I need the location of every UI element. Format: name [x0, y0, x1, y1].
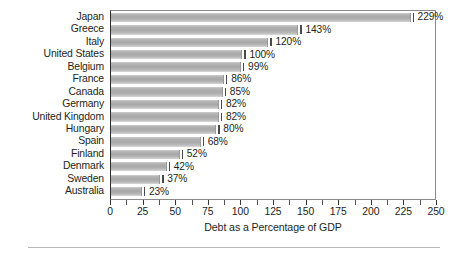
x-tick-label: 175	[330, 206, 347, 217]
x-tick-label: 225	[395, 206, 412, 217]
bar-end-tick	[221, 100, 222, 109]
bar	[111, 187, 142, 196]
x-tick-major	[143, 200, 144, 205]
bar-row: 68%	[111, 136, 437, 148]
x-tick-minor	[355, 200, 356, 205]
category-axis-labels: JapanGreeceItalyUnited StatesBelgiumFran…	[0, 11, 104, 198]
bar-row: 23%	[111, 186, 437, 198]
x-tick-major	[208, 200, 209, 205]
x-tick-major	[338, 200, 339, 205]
category-label: Belgium	[0, 61, 104, 73]
bar-row: 120%	[111, 37, 437, 49]
bar-row: 82%	[111, 111, 437, 123]
category-label: Germany	[0, 98, 104, 110]
bar-row: 143%	[111, 24, 437, 36]
bar-end-tick	[270, 38, 271, 47]
bar	[111, 87, 223, 96]
bar	[111, 112, 219, 121]
x-tick-minor	[159, 200, 160, 205]
bar-end-tick	[300, 25, 301, 34]
bar-end-tick	[218, 125, 219, 134]
x-tick-minor	[192, 200, 193, 205]
category-label: Spain	[0, 135, 104, 147]
x-tick-minor	[224, 200, 225, 205]
bar-row: 52%	[111, 149, 437, 161]
category-label: France	[0, 73, 104, 85]
bar-value-label: 52%	[187, 148, 207, 160]
x-tick-label: 75	[202, 206, 213, 217]
bar-end-tick	[413, 13, 414, 22]
bar-end-tick	[221, 113, 222, 122]
bar-value-label: 82%	[226, 98, 246, 110]
bar	[111, 38, 268, 47]
x-tick-major	[273, 200, 274, 205]
bar-value-label: 229%	[418, 11, 444, 23]
bar-value-label: 82%	[226, 111, 246, 123]
bar-value-label: 85%	[230, 86, 250, 98]
x-tick-label: 200	[362, 206, 379, 217]
x-tick-minor	[257, 200, 258, 205]
bar-row: 82%	[111, 99, 437, 111]
x-tick-label: 0	[107, 206, 113, 217]
x-tick-label: 125	[264, 206, 281, 217]
bar-row: 85%	[111, 86, 437, 98]
x-tick-minor	[289, 200, 290, 205]
bar-row: 99%	[111, 61, 437, 73]
bar-value-label: 143%	[305, 24, 331, 36]
x-tick-label: 25	[137, 206, 148, 217]
plot-area: 229%143%120%100%99%86%85%82%82%80%68%52%…	[110, 10, 436, 200]
x-tick-minor	[126, 200, 127, 205]
bar-value-label: 23%	[149, 186, 169, 198]
x-axis-title: Debt as a Percentage of GDP	[110, 221, 436, 233]
bar	[111, 13, 411, 22]
bar	[111, 50, 242, 59]
bar-end-tick	[169, 162, 170, 171]
bar-end-tick	[226, 75, 227, 84]
x-tick-minor	[322, 200, 323, 205]
bar	[111, 75, 224, 84]
bar-row: 100%	[111, 49, 437, 61]
bar-end-tick	[244, 50, 245, 59]
bar-row: 229%	[111, 12, 437, 24]
x-tick-major	[110, 200, 111, 205]
x-tick-label: 100	[232, 206, 249, 217]
bar-value-label: 99%	[248, 61, 268, 73]
category-label: Canada	[0, 86, 104, 98]
x-tick-major	[403, 200, 404, 205]
category-label: Japan	[0, 11, 104, 23]
x-tick-minor	[387, 200, 388, 205]
x-tick-major	[371, 200, 372, 205]
category-label: Hungary	[0, 123, 104, 135]
bar-row: 42%	[111, 161, 437, 173]
category-label: United Kingdom	[0, 111, 104, 123]
category-label: Finland	[0, 148, 104, 160]
bar-row: 80%	[111, 124, 437, 136]
bar-end-tick	[243, 63, 244, 72]
x-tick-label: 150	[297, 206, 314, 217]
category-label: Denmark	[0, 160, 104, 172]
x-tick-label: 50	[170, 206, 181, 217]
bar-row: 86%	[111, 74, 437, 86]
bar-value-label: 37%	[167, 173, 187, 185]
footer-divider	[28, 247, 440, 248]
x-tick-label: 250	[427, 206, 444, 217]
category-label: Italy	[0, 36, 104, 48]
category-label: Australia	[0, 185, 104, 197]
category-label: United States	[0, 48, 104, 60]
category-label: Greece	[0, 23, 104, 35]
bar-row: 37%	[111, 173, 437, 185]
bar-end-tick	[144, 187, 145, 196]
bar	[111, 100, 219, 109]
bar-end-tick	[203, 137, 204, 146]
bar	[111, 62, 241, 71]
bar-value-label: 86%	[231, 73, 251, 85]
x-tick-major	[436, 200, 437, 205]
bars-container: 229%143%120%100%99%86%85%82%82%80%68%52%…	[111, 11, 435, 199]
bar-value-label: 120%	[275, 36, 301, 48]
bar	[111, 175, 160, 184]
x-tick-major	[240, 200, 241, 205]
bar	[111, 137, 201, 146]
x-tick-minor	[420, 200, 421, 205]
bar	[111, 162, 167, 171]
bar-end-tick	[225, 88, 226, 97]
